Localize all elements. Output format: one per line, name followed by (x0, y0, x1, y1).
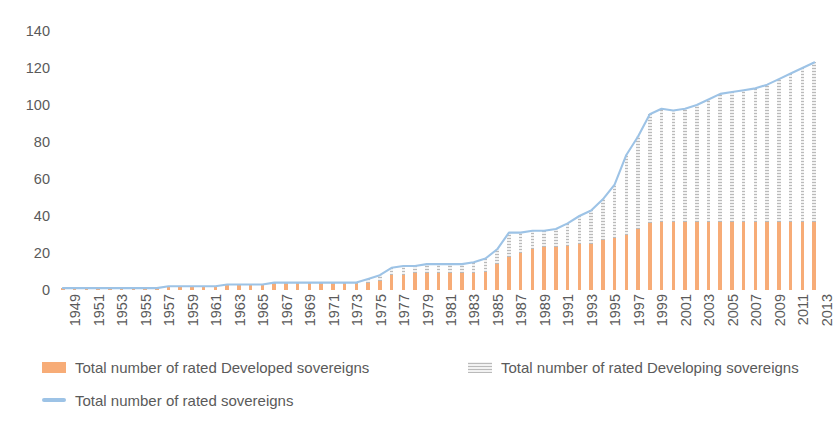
y-axis-tick-label: 0 (6, 283, 50, 298)
legend-item-developed[interactable]: Total number of rated Developed sovereig… (42, 359, 369, 376)
x-axis-tick-label: 1963 (233, 294, 248, 326)
y-axis-tick-label: 20 (6, 246, 50, 261)
line-blue-swatch-icon (42, 398, 66, 402)
legend-row-primary: Total number of rated Developed sovereig… (42, 354, 832, 380)
x-axis-tick-label: 2001 (679, 294, 694, 326)
x-axis-tick-label: 1977 (397, 294, 412, 326)
x-axis-tick-label: 1961 (209, 294, 224, 326)
legend-label-developed: Total number of rated Developed sovereig… (75, 359, 369, 376)
x-axis-tick-label: 1995 (608, 294, 623, 326)
x-axis-tick-label: 1951 (92, 294, 107, 326)
y-axis-tick-label: 140 (6, 24, 50, 39)
x-axis-tick-label: 1993 (585, 294, 600, 326)
x-axis-tick-label: 1971 (327, 294, 342, 326)
bar-orange-swatch-icon (42, 362, 66, 373)
x-axis-tick-label: 1969 (303, 294, 318, 326)
legend-row-secondary: Total number of rated sovereigns (42, 387, 832, 413)
x-axis-tick-label: 1979 (421, 294, 436, 326)
chart-legend: Total number of rated Developed sovereig… (42, 354, 832, 424)
x-axis-tick-label: 1957 (162, 294, 177, 326)
x-axis-tick-label: 2007 (749, 294, 764, 326)
x-axis-tick-label: 1997 (632, 294, 647, 326)
y-axis-tick-label: 80 (6, 135, 50, 150)
x-axis-tick-label: 1965 (256, 294, 271, 326)
x-axis-tick-label: 1991 (561, 294, 576, 326)
x-axis-tick-label: 1975 (374, 294, 389, 326)
x-axis-tick-label: 2009 (773, 294, 788, 326)
x-axis-tick-label: 1967 (280, 294, 295, 326)
x-axis-tick-label: 1955 (139, 294, 154, 326)
x-axis-tick-label: 1949 (68, 294, 83, 326)
x-axis-tick-label: 1973 (350, 294, 365, 326)
x-axis-tick-label: 1981 (444, 294, 459, 326)
plot-area (57, 31, 820, 290)
y-axis-tick-label: 60 (6, 172, 50, 187)
x-axis-tick-label: 1985 (491, 294, 506, 326)
x-axis-tick-label: 1953 (115, 294, 130, 326)
y-axis-tick-label: 40 (6, 209, 50, 224)
y-axis-tick-label: 120 (6, 61, 50, 76)
legend-item-developing[interactable]: Total number of rated Developing soverei… (468, 359, 799, 376)
x-axis-tick-label: 1959 (186, 294, 201, 326)
legend-label-total: Total number of rated sovereigns (75, 392, 293, 409)
sovereign-ratings-chart: 020406080100120140 194919511953195519571… (0, 0, 837, 435)
y-axis-tick-label: 100 (6, 98, 50, 113)
x-axis-tick-label: 1999 (655, 294, 670, 326)
total-line-series (57, 31, 820, 290)
x-axis-tick-label: 2011 (796, 294, 811, 325)
x-axis-tick-label: 2003 (702, 294, 717, 326)
legend-label-developing: Total number of rated Developing soverei… (501, 359, 799, 376)
legend-item-total[interactable]: Total number of rated sovereigns (42, 392, 293, 409)
x-axis: 1949195119531955195719591961196319651967… (57, 292, 820, 347)
x-axis-tick-label: 1983 (467, 294, 482, 326)
x-axis-tick-label: 1989 (538, 294, 553, 326)
bar-grey-dotted-swatch-icon (468, 362, 492, 373)
x-axis-tick-label: 2013 (820, 294, 835, 326)
x-axis-tick-label: 1987 (514, 294, 529, 326)
x-axis-tick-label: 2005 (726, 294, 741, 326)
